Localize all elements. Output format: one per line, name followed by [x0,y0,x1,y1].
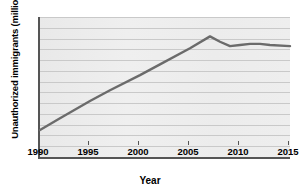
x-axis-tick-label: 2000 [121,146,155,157]
x-axis-tick [188,141,189,145]
y-axis-title: Unauthorized immigrants (millions) [9,0,20,143]
x-axis-tick [88,141,89,145]
x-axis-tick [238,141,239,145]
x-axis-tick-label: 1990 [21,146,55,157]
x-axis-tick-label: 2010 [221,146,255,157]
plot-area [38,17,290,159]
x-axis-tick-label: 2015 [271,146,300,157]
x-axis-tick-label: 2005 [171,146,205,157]
x-axis-title: Year [0,175,300,186]
x-axis-tick [38,141,39,145]
line-series-unauthorized-immigrants [40,17,290,157]
x-axis-tick-label: 1995 [71,146,105,157]
x-axis-tick [138,141,139,145]
chart-container: Unauthorized immigrants (millions) 12345… [0,0,300,193]
x-axis-tick [288,141,289,145]
